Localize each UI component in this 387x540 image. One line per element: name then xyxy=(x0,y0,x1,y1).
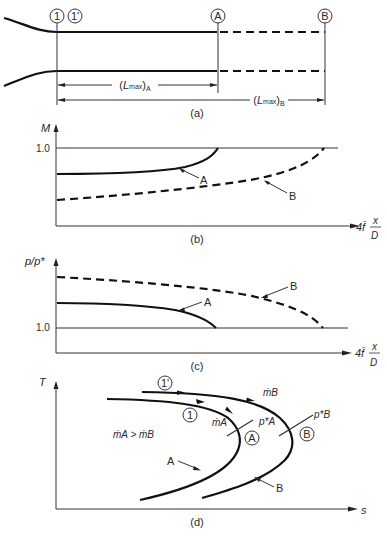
x-axis-label: 4f̄ x D xyxy=(355,341,380,368)
svg-text:B: B xyxy=(321,10,328,22)
duct-wall-top xyxy=(4,18,217,32)
caption-c: (c) xyxy=(191,360,204,372)
caption-d: (d) xyxy=(190,516,203,528)
svg-text:4f̄: 4f̄ xyxy=(355,347,366,359)
mdot-A-label: ṁA xyxy=(212,417,227,428)
pstar-B-label: p*B xyxy=(313,409,330,420)
ytick-1: 1.0 xyxy=(36,143,50,154)
pstar-A-label: p*A xyxy=(258,416,275,427)
mdot-B-label: ṁB xyxy=(263,387,278,398)
y-axis-label: M xyxy=(41,122,51,134)
caption-b: (b) xyxy=(190,233,203,245)
svg-text:1': 1' xyxy=(71,10,79,22)
svg-text:x: x xyxy=(372,215,379,226)
curve-A-label: A xyxy=(167,455,175,467)
panel-a-duct: 1 1' A B (Lmax)A (Lmax)B (a) xyxy=(4,9,332,119)
panel-c-pressure-plot: p/p* 1.0 A B 4f̄ x D (c) xyxy=(24,255,380,372)
fanno-line-B xyxy=(142,392,292,498)
caption-a: (a) xyxy=(190,107,203,119)
x-axis-label: 4f̄ x D xyxy=(356,215,381,241)
curve-A-label: A xyxy=(200,174,208,186)
state-1-marker: 1 xyxy=(183,408,197,422)
svg-text:x: x xyxy=(371,341,378,352)
svg-text:B: B xyxy=(303,428,310,440)
svg-text:1: 1 xyxy=(54,10,60,22)
dim-lmax-b-label: (Lmax)B xyxy=(253,94,285,107)
svg-text:A: A xyxy=(214,10,222,22)
svg-text:1': 1' xyxy=(161,377,169,389)
state-1prime-marker: 1' xyxy=(158,376,172,390)
station-1-marker: 1 xyxy=(50,9,64,23)
curve-B-label: B xyxy=(276,482,283,494)
mass-flow-relation: ṁA > ṁB xyxy=(113,429,154,440)
curve-B-label: B xyxy=(290,280,297,292)
ytick-1: 1.0 xyxy=(36,322,50,333)
fanno-flow-figure: 1 1' A B (Lmax)A (Lmax)B (a) M xyxy=(0,0,387,540)
svg-text:A: A xyxy=(248,432,256,444)
duct-wall-bottom xyxy=(4,71,217,86)
station-A-marker: A xyxy=(211,9,225,23)
dim-lmax-a-label: (Lmax)A xyxy=(119,79,151,92)
curve-A xyxy=(57,303,216,328)
panel-d-ts-diagram: T s 1' 1 A B ṁB ṁA ṁA > xyxy=(39,376,367,528)
curve-B-label: B xyxy=(289,190,296,202)
curve-A xyxy=(57,148,218,174)
svg-text:D: D xyxy=(370,357,377,368)
svg-text:D: D xyxy=(371,230,378,241)
state-A-marker: A xyxy=(245,431,259,445)
y-axis-label: T xyxy=(39,376,47,388)
station-1prime-marker: 1' xyxy=(68,9,82,23)
station-B-marker: B xyxy=(318,9,332,23)
svg-text:4f̄: 4f̄ xyxy=(356,221,367,233)
state-B-marker: B xyxy=(300,427,314,441)
y-axis-label: p/p* xyxy=(24,255,45,267)
fanno-line-A xyxy=(107,399,240,500)
x-axis-label: s xyxy=(361,504,367,516)
panel-b-mach-plot: M 1.0 A B 4f̄ x D (b) xyxy=(36,122,381,245)
svg-text:1: 1 xyxy=(187,409,193,421)
curve-A-label: A xyxy=(204,296,212,308)
